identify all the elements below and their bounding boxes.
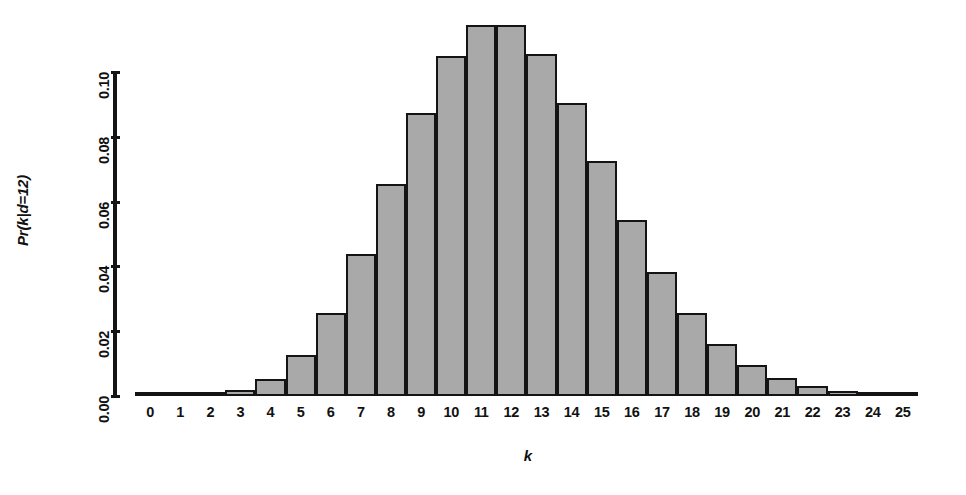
bar[interactable] xyxy=(737,365,767,396)
bar-slot xyxy=(737,0,767,396)
y-axis-title: Pr(k|d=12) xyxy=(14,175,31,246)
bar[interactable] xyxy=(195,392,225,396)
x-axis-tick-label: 0 xyxy=(135,404,165,420)
y-axis-tick-label: 0.02 xyxy=(96,331,112,358)
bar-slot xyxy=(346,0,376,396)
bar[interactable] xyxy=(888,392,918,396)
bar[interactable] xyxy=(677,313,707,396)
plot-area xyxy=(117,0,947,420)
bar[interactable] xyxy=(376,184,406,396)
x-axis-tick-label: 24 xyxy=(858,404,888,420)
y-axis-tick-label: 0.04 xyxy=(96,266,112,293)
x-axis-tick-label: 13 xyxy=(526,404,556,420)
bar[interactable] xyxy=(436,56,466,396)
x-axis-tick-label: 16 xyxy=(617,404,647,420)
bar[interactable] xyxy=(617,220,647,396)
bar-series xyxy=(135,0,918,396)
x-axis-tick-label: 4 xyxy=(255,404,285,420)
bar[interactable] xyxy=(346,254,376,396)
x-axis-tick-label: 22 xyxy=(797,404,827,420)
x-axis-tick-label: 2 xyxy=(195,404,225,420)
x-axis-tick-label: 25 xyxy=(888,404,918,420)
y-axis-tick-label: 0.00 xyxy=(96,396,112,423)
bar-slot xyxy=(406,0,436,396)
bar-slot xyxy=(557,0,587,396)
bar-slot xyxy=(797,0,827,396)
bar-slot xyxy=(828,0,858,396)
x-axis-tick-label: 14 xyxy=(557,404,587,420)
bar-slot xyxy=(436,0,466,396)
bar-slot xyxy=(286,0,316,396)
bar-slot xyxy=(858,0,888,396)
bar[interactable] xyxy=(587,161,617,396)
bar[interactable] xyxy=(526,54,556,396)
x-axis-title: k xyxy=(0,447,966,464)
y-axis-title-wrap: Pr(k|d=12) xyxy=(0,0,44,420)
bar[interactable] xyxy=(406,113,436,396)
bar-slot xyxy=(466,0,496,396)
y-axis: 0.000.020.040.060.080.10 xyxy=(44,0,120,420)
bar[interactable] xyxy=(828,391,858,396)
bar-slot xyxy=(617,0,647,396)
bar-slot xyxy=(165,0,195,396)
x-axis-tick-label: 21 xyxy=(767,404,797,420)
bar[interactable] xyxy=(165,392,195,396)
bar-slot xyxy=(135,0,165,396)
bar[interactable] xyxy=(286,355,316,396)
x-axis-tick-label: 1 xyxy=(165,404,195,420)
x-axis-tick-label: 17 xyxy=(647,404,677,420)
bar-slot xyxy=(647,0,677,396)
x-axis-tick-label: 9 xyxy=(406,404,436,420)
bar-slot xyxy=(707,0,737,396)
bar-slot xyxy=(888,0,918,396)
y-axis-tick-label: 0.10 xyxy=(96,72,112,99)
x-axis-tick-label: 6 xyxy=(316,404,346,420)
bar-slot xyxy=(316,0,346,396)
bar[interactable] xyxy=(797,386,827,396)
bar[interactable] xyxy=(557,103,587,396)
bar[interactable] xyxy=(135,392,165,396)
bar[interactable] xyxy=(647,272,677,396)
bar[interactable] xyxy=(767,378,797,396)
y-axis-tick-label: 0.06 xyxy=(96,202,112,229)
bar-slot xyxy=(225,0,255,396)
y-axis-tick-label: 0.08 xyxy=(96,137,112,164)
x-axis-tick-label: 20 xyxy=(737,404,767,420)
bar[interactable] xyxy=(858,392,888,396)
bar-slot xyxy=(195,0,225,396)
x-axis-tick-label: 12 xyxy=(496,404,526,420)
bar-slot xyxy=(526,0,556,396)
bar[interactable] xyxy=(316,313,346,396)
bar[interactable] xyxy=(225,390,255,396)
x-axis-tick-label: 15 xyxy=(587,404,617,420)
x-axis-tick-label: 7 xyxy=(346,404,376,420)
bar[interactable] xyxy=(707,344,737,396)
x-axis-tick-labels: 0123456789101112131415161718192021222324… xyxy=(135,404,918,420)
x-axis-tick-label: 5 xyxy=(286,404,316,420)
bar-slot xyxy=(767,0,797,396)
bar[interactable] xyxy=(466,25,496,396)
x-axis-tick-label: 10 xyxy=(436,404,466,420)
bar-slot xyxy=(587,0,617,396)
x-axis-tick-label: 19 xyxy=(707,404,737,420)
bar-slot xyxy=(496,0,526,396)
x-axis-tick-label: 8 xyxy=(376,404,406,420)
bar-slot xyxy=(255,0,285,396)
bar-slot xyxy=(677,0,707,396)
x-axis-tick-label: 3 xyxy=(225,404,255,420)
bar-slot xyxy=(376,0,406,396)
poisson-pmf-bar-chart: Pr(k|d=12) 0.000.020.040.060.080.10 0123… xyxy=(0,0,966,495)
bar[interactable] xyxy=(496,25,526,396)
x-axis-tick-label: 11 xyxy=(466,404,496,420)
x-axis-tick-label: 18 xyxy=(677,404,707,420)
bar[interactable] xyxy=(255,379,285,396)
x-axis-tick-label: 23 xyxy=(828,404,858,420)
